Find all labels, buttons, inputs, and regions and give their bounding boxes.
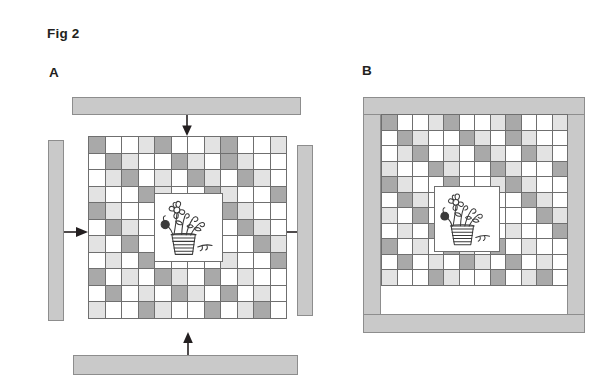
grid-cell bbox=[553, 162, 569, 178]
grid-cell bbox=[254, 220, 271, 237]
grid-cell bbox=[382, 193, 398, 209]
grid-cell bbox=[221, 269, 238, 286]
grid-cell bbox=[155, 302, 172, 319]
grid-cell bbox=[522, 239, 538, 255]
grid-cell bbox=[382, 162, 398, 178]
grid-cell bbox=[398, 162, 414, 178]
flower-vase-picture-panel-a bbox=[154, 193, 223, 262]
grid-cell bbox=[506, 239, 522, 255]
grid-cell bbox=[238, 187, 255, 204]
grid-cell bbox=[398, 224, 414, 240]
grid-cell bbox=[413, 115, 429, 131]
grid-cell bbox=[155, 137, 172, 154]
grid-cell bbox=[254, 170, 271, 187]
figure-title: Fig 2 bbox=[47, 26, 80, 41]
grid-cell bbox=[122, 286, 139, 303]
grid-cell bbox=[553, 224, 569, 240]
grid-cell bbox=[522, 270, 538, 286]
grid-cell bbox=[429, 270, 445, 286]
arrow-right-icon bbox=[64, 224, 88, 240]
grid-cell bbox=[460, 255, 476, 271]
grid-cell bbox=[475, 162, 491, 178]
bottom-bar-panel-a bbox=[73, 355, 298, 375]
grid-cell bbox=[444, 255, 460, 271]
grid-cell bbox=[238, 269, 255, 286]
grid-cell bbox=[205, 154, 222, 171]
grid-cell bbox=[238, 220, 255, 237]
grid-cell bbox=[413, 270, 429, 286]
grid-cell bbox=[506, 270, 522, 286]
grid-cell bbox=[522, 131, 538, 147]
grid-cell bbox=[106, 154, 123, 171]
grid-cell bbox=[553, 255, 569, 271]
grid-cell bbox=[139, 170, 156, 187]
grid-cell bbox=[172, 269, 189, 286]
bottom-bar-panel-b bbox=[363, 314, 585, 333]
grid-cell bbox=[506, 193, 522, 209]
grid-cell bbox=[491, 115, 507, 131]
grid-cell bbox=[398, 115, 414, 131]
grid-cell bbox=[398, 146, 414, 162]
grid-cell bbox=[89, 187, 106, 204]
grid-cell bbox=[221, 236, 238, 253]
grid-cell bbox=[553, 131, 569, 147]
grid-cell bbox=[106, 269, 123, 286]
grid-cell bbox=[188, 286, 205, 303]
grid-cell bbox=[382, 270, 398, 286]
grid-cell bbox=[413, 131, 429, 147]
grid-cell bbox=[188, 154, 205, 171]
grid-cell bbox=[382, 208, 398, 224]
grid-cell bbox=[254, 253, 271, 270]
grid-cell bbox=[522, 115, 538, 131]
grid-cell bbox=[89, 154, 106, 171]
grid-cell bbox=[139, 236, 156, 253]
grid-cell bbox=[122, 302, 139, 319]
grid-cell bbox=[271, 253, 288, 270]
grid-cell bbox=[506, 224, 522, 240]
grid-cell bbox=[460, 162, 476, 178]
grid-cell bbox=[271, 236, 288, 253]
grid-cell bbox=[413, 193, 429, 209]
grid-cell bbox=[188, 170, 205, 187]
grid-cell bbox=[155, 286, 172, 303]
grid-cell bbox=[506, 131, 522, 147]
grid-cell bbox=[429, 162, 445, 178]
grid-cell bbox=[382, 131, 398, 147]
grid-cell bbox=[271, 154, 288, 171]
grid-cell bbox=[553, 208, 569, 224]
grid-cell bbox=[271, 137, 288, 154]
grid-cell bbox=[271, 220, 288, 237]
grid-cell bbox=[413, 255, 429, 271]
grid-cell bbox=[537, 208, 553, 224]
grid-cell bbox=[254, 154, 271, 171]
grid-cell bbox=[106, 203, 123, 220]
grid-cell bbox=[205, 269, 222, 286]
grid-cell bbox=[491, 131, 507, 147]
grid-cell bbox=[429, 115, 445, 131]
grid-cell bbox=[89, 253, 106, 270]
grid-cell bbox=[537, 177, 553, 193]
top-bar-panel-b bbox=[363, 97, 585, 115]
grid-cell bbox=[221, 302, 238, 319]
left-bar-panel-b bbox=[363, 114, 381, 315]
grid-cell bbox=[238, 170, 255, 187]
grid-cell bbox=[238, 236, 255, 253]
grid-cell bbox=[89, 170, 106, 187]
grid-cell bbox=[382, 146, 398, 162]
grid-cell bbox=[238, 286, 255, 303]
grid-cell bbox=[172, 302, 189, 319]
grid-cell bbox=[271, 286, 288, 303]
grid-cell bbox=[475, 270, 491, 286]
grid-cell bbox=[506, 177, 522, 193]
grid-cell bbox=[271, 187, 288, 204]
grid-cell bbox=[106, 220, 123, 237]
grid-cell bbox=[429, 131, 445, 147]
grid-cell bbox=[271, 170, 288, 187]
grid-cell bbox=[553, 146, 569, 162]
grid-cell bbox=[398, 177, 414, 193]
grid-cell bbox=[398, 193, 414, 209]
grid-cell bbox=[460, 115, 476, 131]
grid-cell bbox=[271, 269, 288, 286]
grid-cell bbox=[537, 224, 553, 240]
grid-cell bbox=[254, 302, 271, 319]
